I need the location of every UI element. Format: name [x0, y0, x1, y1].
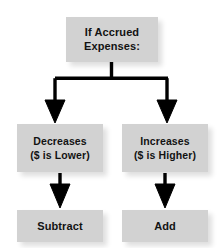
node-decreases-line-2: ($ is Lower) [30, 148, 90, 162]
right-branch-arrowhead [157, 100, 177, 123]
node-decreases-line-1: Decreases [33, 134, 86, 148]
node-add-label: Add [154, 220, 176, 233]
node-root-line-2: Expenses: [84, 40, 140, 54]
node-if-accrued-expenses: If Accrued Expenses: [66, 17, 158, 62]
flowchart: If Accrued Expenses: Decreases ($ is Low… [0, 0, 224, 248]
node-add: Add [122, 210, 208, 242]
node-decreases: Decreases ($ is Lower) [17, 124, 103, 172]
node-increases-line-1: Increases [140, 134, 189, 148]
node-increases: Increases ($ is Higher) [122, 124, 208, 172]
node-subtract: Subtract [17, 210, 103, 242]
node-subtract-label: Subtract [37, 220, 82, 233]
increases-to-add-arrowhead [155, 184, 175, 208]
left-branch-arrowhead [45, 100, 65, 123]
decreases-to-subtract-arrowhead [50, 184, 70, 208]
node-increases-line-2: ($ is Higher) [134, 148, 196, 162]
node-root-line-1: If Accrued [85, 26, 139, 40]
